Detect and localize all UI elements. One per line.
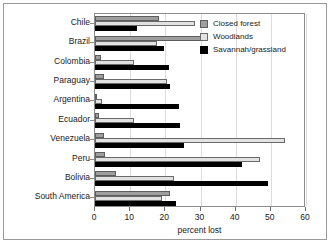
category-label: Argentina	[4, 95, 90, 104]
bar-group	[95, 150, 304, 169]
x-tick	[235, 207, 236, 211]
x-tick	[129, 207, 130, 211]
x-tick	[270, 207, 271, 211]
x-tick	[305, 207, 306, 211]
bar-sav	[95, 143, 184, 148]
category-label: Ecuador	[4, 115, 90, 124]
legend-item: Closed forest	[200, 17, 308, 30]
x-tick-label: 0	[92, 212, 97, 222]
bar-sav	[95, 181, 268, 186]
category-label: Paraguay	[4, 76, 90, 85]
x-tick-label: 40	[230, 212, 239, 222]
legend-label: Woodlands	[213, 32, 253, 41]
chart-legend: Closed forestWoodlandsSavannah/grassland	[200, 17, 308, 56]
category-label: Colombia	[4, 57, 90, 66]
bar-group	[95, 189, 304, 208]
category-label: Peru	[4, 154, 90, 163]
bar-group	[95, 72, 304, 91]
legend-label: Closed forest	[213, 19, 260, 28]
x-tick-label: 20	[160, 212, 169, 222]
legend-swatch-closed	[200, 20, 208, 28]
legend-item: Savannah/grassland	[200, 43, 308, 56]
bar-sav	[95, 46, 164, 51]
bar-group	[95, 111, 304, 130]
category-label: Brazil	[4, 37, 90, 46]
chart-figure: ChileBrazilColombiaParaguayArgentinaEcua…	[0, 0, 331, 244]
bar-sav	[95, 65, 169, 70]
bar-group	[95, 169, 304, 188]
bar-sav	[95, 201, 176, 206]
legend-swatch-sav	[200, 46, 208, 54]
bar-sav	[95, 26, 137, 31]
legend-label: Savannah/grassland	[213, 45, 286, 54]
category-axis: ChileBrazilColombiaParaguayArgentinaEcua…	[0, 13, 90, 207]
bar-sav	[95, 104, 179, 109]
legend-item: Woodlands	[200, 30, 308, 43]
x-tick	[94, 207, 95, 211]
x-tick	[200, 207, 201, 211]
category-label: Chile	[4, 18, 90, 27]
x-tick-label: 50	[265, 212, 274, 222]
legend-swatch-wood	[200, 33, 208, 41]
category-label: Venezuela	[4, 134, 90, 143]
bar-sav	[95, 84, 170, 89]
x-axis-title: percent lost	[94, 225, 305, 235]
category-label: South America	[4, 192, 90, 201]
x-tick-label: 10	[124, 212, 133, 222]
x-tick	[164, 207, 165, 211]
bar-group	[95, 92, 304, 111]
bar-sav	[95, 123, 180, 128]
x-tick-label: 60	[300, 212, 309, 222]
x-tick-label: 30	[195, 212, 204, 222]
category-label: Bolivia	[4, 173, 90, 182]
bar-sav	[95, 162, 242, 167]
bar-group	[95, 130, 304, 149]
